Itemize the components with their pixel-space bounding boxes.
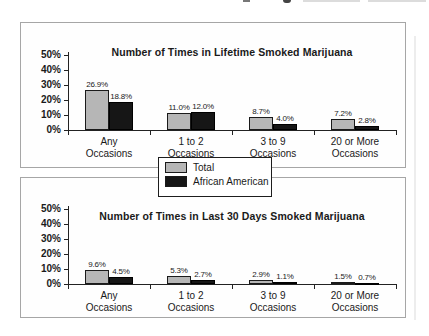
value-label: 12.0% xyxy=(181,102,225,111)
y-axis-label: 40% xyxy=(27,64,61,76)
x-axis-tick xyxy=(68,131,69,135)
x-axis-tick xyxy=(314,285,315,289)
bar-african-american xyxy=(355,283,379,285)
last-30-days-marijuana-chart-panel: Number of Times in Last 30 Days Smoked M… xyxy=(20,177,406,318)
y-axis-tick xyxy=(64,55,68,56)
y-axis-tick xyxy=(64,85,68,86)
y-axis-tick xyxy=(64,224,68,225)
bar-african-american xyxy=(355,126,379,130)
category-label: 1 to 2Occasions xyxy=(148,136,234,159)
scan-edge-artifact xyxy=(414,36,416,320)
bar-total xyxy=(167,113,191,130)
category-label-line: Any xyxy=(66,290,152,302)
legend: Total African American xyxy=(158,157,272,197)
y-axis-line xyxy=(68,52,69,131)
y-axis-tick xyxy=(64,254,68,255)
legend-item-african-american: African American xyxy=(159,176,271,187)
y-axis-tick xyxy=(64,209,68,210)
category-label: 3 to 9Occasions xyxy=(230,136,316,159)
category-label-line: Occasions xyxy=(312,302,398,314)
bar-african-american xyxy=(109,277,133,284)
y-axis-label: 10% xyxy=(27,263,61,275)
value-label: 0.7% xyxy=(345,273,389,282)
category-label: AnyOccasions xyxy=(66,136,152,159)
bar-african-american xyxy=(273,124,297,130)
y-axis-label: 40% xyxy=(27,218,61,230)
category-label-line: Occasions xyxy=(230,302,316,314)
legend-label-total: Total xyxy=(193,162,214,173)
value-label: 18.8% xyxy=(99,92,143,101)
legend-label-african-american: African American xyxy=(193,176,269,187)
category-label-line: 3 to 9 xyxy=(230,290,316,302)
y-axis-tick xyxy=(64,70,68,71)
lifetime-marijuana-chart-panel: Number of Times in Lifetime Smoked Marij… xyxy=(20,22,406,168)
y-axis-tick xyxy=(64,115,68,116)
x-axis-tick xyxy=(396,285,397,289)
y-axis-label: 0% xyxy=(27,278,61,290)
category-label-line: Occasions xyxy=(312,148,398,160)
y-axis-label: 10% xyxy=(27,109,61,121)
category-label: 1 to 2Occasions xyxy=(148,290,234,313)
y-axis-tick xyxy=(64,269,68,270)
x-axis-tick xyxy=(232,131,233,135)
value-label: 26.9% xyxy=(75,80,119,89)
x-axis-tick xyxy=(314,131,315,135)
cropped-highlight-artifact xyxy=(303,0,360,2)
x-axis-tick xyxy=(150,131,151,135)
category-label-line: Occasions xyxy=(66,148,152,160)
african-american-color-swatch xyxy=(165,176,187,187)
category-label-line: 20 or More xyxy=(312,290,398,302)
category-label: 20 or MoreOccasions xyxy=(312,290,398,313)
value-label: 4.0% xyxy=(263,114,307,123)
bar-african-american xyxy=(109,102,133,130)
cropped-text-artifact xyxy=(283,0,291,3)
y-axis-label: 50% xyxy=(27,49,61,61)
y-axis-line xyxy=(68,206,69,285)
y-axis-tick xyxy=(64,100,68,101)
total-color-swatch xyxy=(165,162,187,173)
category-label-line: Occasions xyxy=(66,302,152,314)
scanned-figure-page: { "page": { "background": "#ffffff" }, "… xyxy=(0,0,429,336)
value-label: 1.1% xyxy=(263,272,307,281)
category-label-line: 1 to 2 xyxy=(148,290,234,302)
y-axis-tick xyxy=(64,239,68,240)
y-axis-label: 30% xyxy=(27,79,61,91)
x-axis-tick xyxy=(150,285,151,289)
category-label-line: 1 to 2 xyxy=(148,136,234,148)
y-axis-label: 50% xyxy=(27,203,61,215)
plot-area: 50%40%30%20%10%0%AnyOccasions26.9%18.8%1… xyxy=(21,23,405,167)
category-label: AnyOccasions xyxy=(66,290,152,313)
x-axis-tick xyxy=(68,285,69,289)
bar-total xyxy=(331,282,355,284)
y-axis-label: 20% xyxy=(27,94,61,106)
cropped-highlight-artifact xyxy=(368,0,426,2)
category-label: 20 or MoreOccasions xyxy=(312,136,398,159)
category-label-line: Any xyxy=(66,136,152,148)
y-axis-label: 20% xyxy=(27,248,61,260)
x-axis-tick xyxy=(396,131,397,135)
y-axis-label: 0% xyxy=(27,124,61,136)
bar-african-american xyxy=(191,112,215,130)
x-axis-tick xyxy=(232,285,233,289)
value-label: 2.7% xyxy=(181,270,225,279)
value-label: 4.5% xyxy=(99,267,143,276)
legend-item-total: Total xyxy=(159,162,271,173)
category-label-line: 3 to 9 xyxy=(230,136,316,148)
category-label-line: 20 or More xyxy=(312,136,398,148)
cropped-text-artifact xyxy=(243,0,250,2)
bar-african-american xyxy=(273,282,297,284)
category-label: 3 to 9Occasions xyxy=(230,290,316,313)
y-axis-label: 30% xyxy=(27,233,61,245)
value-label: 2.8% xyxy=(345,116,389,125)
bar-african-american xyxy=(191,280,215,284)
plot-area: 50%40%30%20%10%0%AnyOccasions9.6%4.5%1 t… xyxy=(21,178,405,317)
category-label-line: Occasions xyxy=(148,302,234,314)
